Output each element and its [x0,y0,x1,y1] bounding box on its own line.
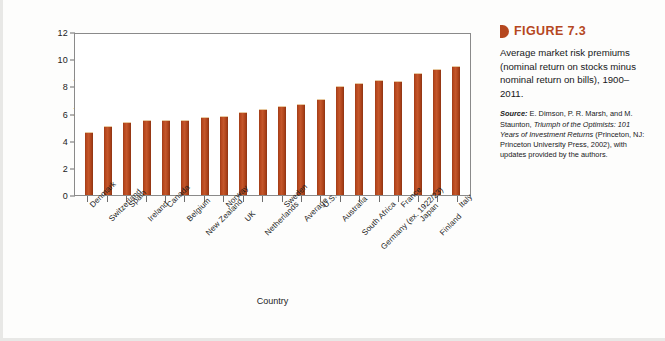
x-axis-label-slot: Sweden [278,203,286,283]
x-axis-label-slot: Germany (ex. 1922/23) [375,203,383,283]
x-axis-label-slot: France [395,203,403,283]
x-axis-label-slot: Norway [220,203,228,283]
x-axis-label-slot: Switzerland [103,203,111,283]
bar [143,120,151,195]
x-axis-tick-mark [375,196,383,203]
bar [355,83,363,195]
x-axis-label-slot: Japan [414,203,422,283]
y-axis-tick-label: 12 [58,28,68,38]
chart-figure: Risk premium, % 024681012 DenmarkSwitzer… [0,0,492,341]
y-axis: Risk premium, % 024681012 [40,33,74,196]
figure-number-label: FIGURE 7.3 [514,24,586,38]
plot-area [74,33,471,196]
x-axis-category-label: UK [243,209,257,223]
triangle-marker-icon [500,25,509,38]
bar [394,81,402,195]
figure-caption-text: Average market risk premiums (nominal re… [500,46,650,100]
x-axis-label-slot: Denmark [84,203,92,283]
y-axis-tick-label: 2 [63,164,68,174]
bar [433,69,441,195]
bar [375,80,383,195]
x-axis-label-slot: Canada [161,203,169,283]
y-axis-tick-label: 4 [63,137,68,147]
x-axis-label-slot: UK [239,203,247,283]
x-axis-label-slot: South Africa [356,203,364,283]
x-axis-labels: DenmarkSwitzerlandSpainIrelandCanadaBelg… [74,203,471,283]
bar [336,86,344,195]
bar [452,66,460,195]
x-axis-title: Country [74,296,471,306]
bar [162,120,170,195]
source-label: Source: [500,109,528,118]
x-axis-label-slot: Belgium [181,203,189,283]
bar [201,117,209,195]
x-axis-label-slot: Netherlands [259,203,267,283]
bar-series [75,34,470,195]
bar [414,73,422,195]
figure-caption-column: FIGURE 7.3 Average market risk premiums … [500,24,650,161]
y-axis-tick-label: 6 [63,110,68,120]
x-axis-label-slot: Average [298,203,306,283]
x-axis-tick-mark [259,196,267,203]
x-axis-label-slot: Australia [336,203,344,283]
x-axis-label-slot: U.S. [317,203,325,283]
x-axis-label-slot: Ireland [142,203,150,283]
bar [220,116,228,195]
x-axis-label-slot: Spain [123,203,131,283]
bar [85,132,93,195]
bar [259,109,267,195]
x-axis-label-slot: New Zealand [200,203,208,283]
y-axis-tick-label: 10 [58,55,68,65]
figure-heading: FIGURE 7.3 [500,24,650,38]
figure-page: Risk premium, % 024681012 DenmarkSwitzer… [0,0,665,341]
x-axis-label-slot: Finland [434,203,442,283]
y-axis-tick-label: 0 [63,191,68,201]
x-axis-label-slot: Italy [453,203,461,283]
bar [297,104,305,195]
bar [317,99,325,195]
y-axis-tick-label: 8 [63,82,68,92]
figure-source-text: Source: E. Dimson, P. R. Marsh, and M. S… [500,109,650,160]
bar [123,122,131,195]
bar [278,106,286,195]
